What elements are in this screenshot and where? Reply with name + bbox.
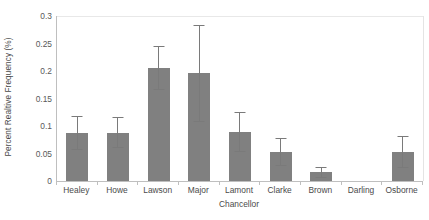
x-tick-mark [219,182,220,185]
error-bar-cap-top [153,46,164,47]
x-tick-label-clarke: Clarke [268,186,292,194]
error-bar-cap-top [72,116,83,117]
bar-group [260,16,301,181]
x-tick-mark [341,182,342,185]
x-tick-mark [300,182,301,185]
x-tick-label-major: Major [188,186,209,194]
y-tick-label: 0.1 [18,122,52,130]
plot-area [56,16,423,182]
bar-group [138,16,179,181]
x-tick-mark [137,182,138,185]
error-bar-stem [402,136,403,168]
error-bar [112,117,123,148]
error-bar [316,167,327,178]
error-bar [153,46,164,90]
error-bar-stem [239,112,240,153]
error-bar-cap-bottom [234,151,245,152]
x-tick-mark [259,182,260,185]
error-bar-stem [199,25,200,122]
y-tick-label: 0.3 [18,12,52,20]
x-tick-label-lamont: Lamont [225,186,253,194]
bar-group [179,16,220,181]
bar-group [342,16,383,181]
error-bar [234,112,245,153]
y-tick-label: 0.25 [18,39,52,47]
error-bar [194,25,205,122]
x-tick-mark [381,182,382,185]
error-bar-cap-bottom [112,147,123,148]
y-tick-label: 0 [18,177,52,185]
error-bar [72,116,83,150]
error-bar-cap-bottom [72,149,83,150]
error-bar-cap-top [397,136,408,137]
x-axis-title: Chancellor [56,200,422,208]
x-tick-label-osborne: Osborne [386,186,418,194]
bar-group [382,16,423,181]
error-bar-stem [280,138,281,166]
bar-group [301,16,342,181]
error-bar [397,136,408,168]
y-tick-label: 0.15 [18,94,52,102]
x-tick-mark [56,182,57,185]
error-bar-cap-bottom [275,165,286,166]
error-bar-cap-top [112,117,123,118]
x-tick-label-howe: Howe [106,186,127,194]
y-tick-label: 0.2 [18,67,52,75]
error-bar-cap-bottom [194,121,205,122]
y-tick-label: 0.05 [18,149,52,157]
bar-chart: Percent Realtive Frequency (%) 00.050.10… [0,0,429,220]
error-bar-cap-top [275,138,286,139]
x-tick-mark [97,182,98,185]
error-bar-cap-bottom [153,89,164,90]
bar-group [220,16,261,181]
error-bar-cap-top [234,112,245,113]
x-tick-label-healey: Healey [63,186,89,194]
error-bar-cap-bottom [316,177,327,178]
bar-group [98,16,139,181]
error-bar [275,138,286,166]
error-bar-stem [158,46,159,90]
x-tick-label-lawson: Lawson [143,186,172,194]
x-tick-mark [178,182,179,185]
plot-right-border [423,16,424,181]
error-bar-cap-top [194,25,205,26]
error-bar-stem [117,117,118,148]
error-bar-cap-top [316,167,327,168]
y-axis-title: Percent Realtive Frequency (%) [2,2,16,192]
x-tick-label-brown: Brown [308,186,332,194]
x-tick-mark [422,182,423,185]
bar-group [57,16,98,181]
x-tick-label-darling: Darling [348,186,375,194]
error-bar-stem [77,116,78,150]
error-bar-cap-bottom [397,167,408,168]
y-axis-tick-labels: 00.050.10.150.20.250.3 [18,0,52,220]
